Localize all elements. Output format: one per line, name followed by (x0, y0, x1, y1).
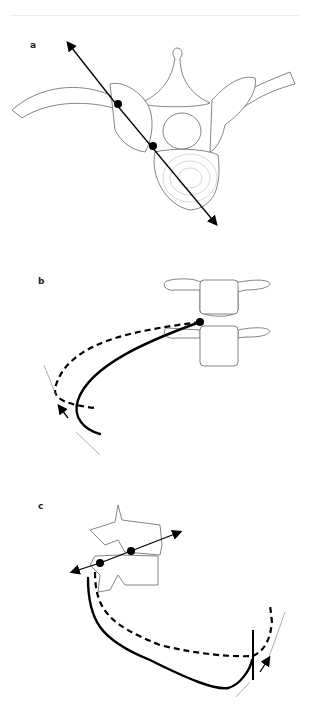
lower-vertebral-body (200, 326, 238, 366)
chest-wall (268, 612, 285, 660)
upper-lateral-vertebra (90, 505, 162, 555)
panel-b (44, 279, 270, 455)
upper-vertebral-body (200, 280, 238, 314)
chest-wall-lower (76, 432, 100, 455)
panel-a (12, 43, 295, 224)
chest-wall-upper (44, 365, 56, 395)
solid-curve (88, 578, 252, 688)
dashed-curve (95, 572, 272, 656)
point-1 (96, 559, 104, 567)
point-2 (127, 547, 135, 555)
spinal-canal (163, 113, 201, 149)
spinous-process (140, 48, 210, 107)
point-1 (114, 100, 122, 108)
pivot-point (196, 318, 204, 326)
transverse-right (210, 77, 255, 152)
solid-curve (77, 322, 200, 434)
figure-canvas (0, 0, 309, 713)
direction-arrow (260, 658, 269, 672)
panel-c (72, 505, 285, 697)
vertebral-body (154, 149, 219, 210)
point-2 (149, 142, 157, 150)
direction-arrow (59, 406, 68, 418)
rib-left (12, 87, 120, 118)
transverse-left (110, 83, 152, 152)
